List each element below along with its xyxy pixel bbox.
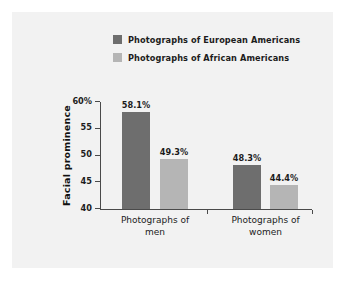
y-axis-tick: 40 [95,208,100,209]
x-axis-line [100,209,312,210]
legend-swatch-icon-african-americans [113,53,122,62]
y-axis-tick-label: 40 [81,203,92,213]
bar-photographs-of-men-s1: 49.3% [160,159,188,209]
bar-photographs-of-women-s0: 48.3% [233,165,261,209]
x-category-label-women-line1: Photographs of [216,215,316,227]
x-axis-tick [312,210,313,214]
x-category-label-women-line2: women [216,227,316,239]
bar-photographs-of-women-s1: 44.4% [270,185,298,209]
y-axis-tick-label: 50 [81,149,92,159]
plot-area: 60%55504540 58.1%49.3%48.3%44.4% [100,102,312,209]
y-axis-tick: 60% [95,101,100,102]
bar-value-label: 44.4% [270,173,298,183]
y-axis-tick: 55 [95,128,100,129]
x-category-label-men: Photographs of men [105,215,205,238]
y-axis-tick: 50 [95,155,100,156]
legend-item-african-americans: Photographs of African Americans [113,50,328,65]
legend-item-european-americans: Photographs of European Americans [113,32,328,47]
y-axis-tick-label: 45 [81,176,92,186]
x-axis-tick [207,210,208,214]
bar-value-label: 49.3% [160,147,188,157]
y-axis-line [100,102,101,210]
legend-label-european-americans: Photographs of European Americans [128,35,300,45]
bar-value-label: 58.1% [122,100,150,110]
chart-figure: Photographs of European Americans Photog… [12,12,333,268]
y-axis-tick-label: 60% [72,96,92,106]
bar-value-label: 48.3% [233,153,261,163]
y-axis-tick-label: 55 [81,122,92,132]
bar-photographs-of-men-s0: 58.1% [122,112,150,209]
y-axis-title: Facial prominence [59,102,73,209]
y-axis-tick: 45 [95,181,100,182]
x-category-label-men-line2: men [105,227,205,239]
legend-swatch-icon-european-americans [113,35,122,44]
chart-legend: Photographs of European Americans Photog… [113,32,328,68]
x-category-label-men-line1: Photographs of [105,215,205,227]
x-category-label-women: Photographs of women [216,215,316,238]
legend-label-african-americans: Photographs of African Americans [128,53,289,63]
